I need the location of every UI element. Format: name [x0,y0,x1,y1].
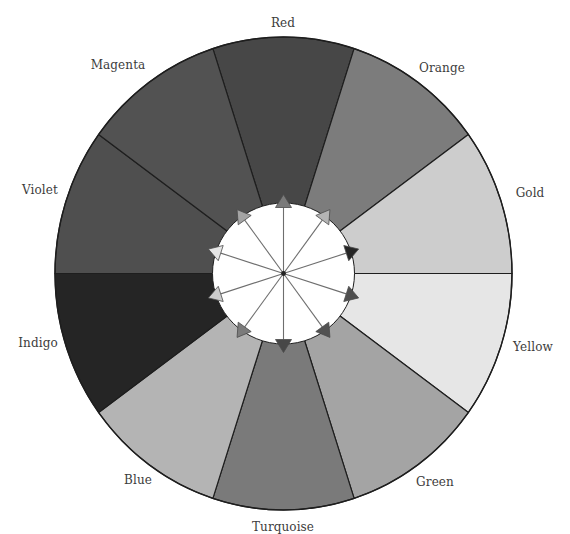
color-wheel-diagram: RedOrangeGoldYellowGreenTurquoiseBlueInd… [0,0,570,534]
label-orange: Orange [419,61,465,75]
color-wheel-svg [0,0,570,534]
center-dot [281,271,286,276]
label-blue: Blue [124,473,152,487]
label-yellow: Yellow [513,340,553,354]
label-red: Red [271,16,295,30]
label-turquoise: Turquoise [252,520,314,534]
label-gold: Gold [516,186,545,200]
label-magenta: Magenta [91,58,146,72]
label-violet: Violet [22,183,58,197]
label-green: Green [416,475,454,489]
label-indigo: Indigo [18,336,58,350]
